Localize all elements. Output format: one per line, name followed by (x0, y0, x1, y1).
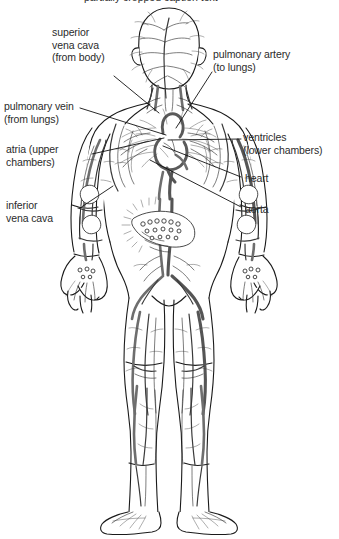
label-pulmonary-artery: pulmonary artery (to lungs) (213, 48, 290, 73)
label-heart: heart (245, 172, 268, 185)
label-aorta: aorta (245, 203, 268, 216)
label-inferior-vena-cava: inferior vena cava (6, 199, 53, 224)
anatomy-illustration (0, 0, 339, 539)
label-ventricles: ventricles (lower chambers) (243, 131, 323, 156)
circulatory-system-figure: partially cropped caption text (0, 0, 339, 539)
label-superior-vena-cava: superior vena cava (from body) (52, 26, 105, 64)
label-atria: atria (upper chambers) (6, 143, 59, 168)
abdominal-vessels (122, 197, 200, 281)
label-pulmonary-vein: pulmonary vein (from lungs) (4, 100, 74, 125)
